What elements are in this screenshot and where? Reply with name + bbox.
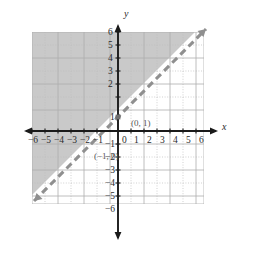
xtick-label--4: −4 bbox=[54, 136, 64, 146]
xtick-label-5: 5 bbox=[186, 136, 191, 146]
ytick-label--5: −5 bbox=[105, 192, 115, 202]
xtick-label--1: −1 bbox=[93, 136, 103, 146]
ytick-label--3: −3 bbox=[105, 166, 115, 176]
ytick-label-5: 5 bbox=[108, 41, 113, 51]
x-axis-label: x bbox=[222, 122, 226, 132]
xtick-label--2: −2 bbox=[80, 136, 90, 146]
ytick-label--6: −6 bbox=[105, 205, 115, 215]
coordinate-plane-svg bbox=[0, 0, 253, 258]
y-axis-label: y bbox=[124, 9, 128, 19]
xtick-label-4: 4 bbox=[173, 136, 178, 146]
plotted-point-0-1 bbox=[116, 115, 121, 120]
ytick-label-1: 1 bbox=[110, 113, 115, 123]
xtick-label-2: 2 bbox=[147, 136, 152, 146]
ytick-label-6: 6 bbox=[108, 28, 113, 38]
xtick-label-1: 1 bbox=[134, 136, 139, 146]
ytick-label-4: 4 bbox=[108, 54, 113, 64]
xtick-label--5: −5 bbox=[41, 136, 51, 146]
ytick-label--1: −1 bbox=[105, 140, 115, 150]
xtick-label-3: 3 bbox=[160, 136, 165, 146]
point-label--1-0: (−1, 0) bbox=[94, 152, 119, 161]
ytick-label--4: −4 bbox=[105, 179, 115, 189]
xtick-label--6: −6 bbox=[28, 136, 38, 146]
ytick-label-2: 2 bbox=[108, 80, 113, 90]
inequality-graph-figure: −6 −5 −4 −3 −2 −1 0 1 2 3 4 5 6 6 5 4 3 … bbox=[0, 0, 253, 258]
point-label-0-1: (0, 1) bbox=[131, 119, 151, 128]
xtick-label--3: −3 bbox=[67, 136, 77, 146]
xtick-label-6: 6 bbox=[199, 136, 204, 146]
ytick-label-3: 3 bbox=[108, 67, 113, 77]
xtick-label-0: 0 bbox=[122, 136, 127, 146]
